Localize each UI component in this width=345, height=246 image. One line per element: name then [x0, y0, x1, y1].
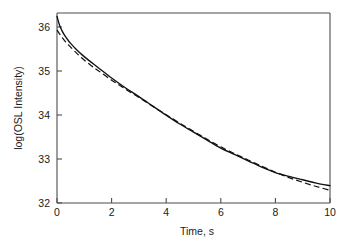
y-tick-label-36: 36 [38, 21, 50, 33]
x-tick-label-6: 6 [218, 206, 224, 218]
x-tick-label-2: 2 [109, 206, 115, 218]
x-tick-label-10: 10 [324, 206, 336, 218]
data-curves [57, 16, 330, 190]
x-axis-ticks [57, 198, 330, 203]
x-tick-label-8: 8 [272, 206, 278, 218]
y-tick-label-34: 34 [38, 109, 50, 121]
y-tick-label-35: 35 [38, 65, 50, 77]
x-tick-label-4: 4 [163, 206, 169, 218]
y-tick-label-33: 33 [38, 153, 50, 165]
osl-decay-chart-figure: 36 35 34 33 32 0 2 4 6 8 10 Time, s log(… [0, 0, 345, 246]
series-measured-curve [57, 16, 330, 185]
series-fitted-curve [57, 30, 330, 190]
x-tick-label-0: 0 [54, 206, 60, 218]
y-axis-ticks [57, 27, 62, 203]
y-axis-tick-labels: 36 35 34 33 32 [38, 21, 50, 209]
y-tick-label-32: 32 [38, 197, 50, 209]
x-axis-title: Time, s [180, 225, 214, 237]
axes-frame [57, 13, 330, 203]
x-axis-tick-labels: 0 2 4 6 8 10 [54, 206, 336, 218]
y-axis-title: log(OSL Intensity) [12, 66, 24, 150]
chart-canvas: 36 35 34 33 32 0 2 4 6 8 10 Time, s log(… [0, 0, 345, 246]
